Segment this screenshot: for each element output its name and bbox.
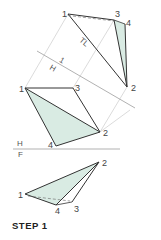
- top-label-1: 1: [19, 84, 24, 94]
- fold-label-f: F: [18, 150, 23, 159]
- aux-label-1: 1: [62, 9, 67, 19]
- front-label-4: 4: [55, 206, 60, 216]
- aux-label-2: 2: [131, 83, 136, 93]
- descriptive-geometry-diagram: 1 3 4 2 TL 1 H 1 3 2 4 H F 2 1 4 3 STEP …: [0, 0, 161, 240]
- top-label-3: 3: [75, 83, 80, 93]
- true-length-annotation: TL: [77, 36, 90, 49]
- aux-label-3: 3: [115, 9, 120, 19]
- top-label-2: 2: [103, 128, 108, 138]
- aux-label-4: 4: [126, 18, 131, 28]
- top-view: [25, 88, 100, 146]
- auxiliary-view: [68, 14, 127, 87]
- front-label-1: 1: [18, 190, 23, 200]
- front-label-2: 2: [102, 158, 107, 168]
- top-label-4: 4: [48, 140, 53, 150]
- fold-label-h: H: [17, 139, 23, 148]
- front-view: [25, 162, 99, 205]
- top-shaded-face: [25, 88, 100, 146]
- fold-label-h-upper: H: [48, 63, 58, 74]
- front-label-3: 3: [74, 204, 79, 214]
- step-caption: STEP 1: [12, 220, 48, 231]
